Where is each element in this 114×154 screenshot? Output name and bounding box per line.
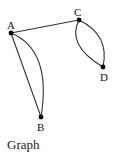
node-a (9, 31, 14, 36)
node-label-d: D (100, 71, 108, 83)
graph-diagram: A B C D Graph (0, 0, 114, 154)
diagram-caption: Graph (7, 137, 40, 152)
edge-a-b-straight (11, 33, 41, 117)
node-label-c: C (74, 6, 81, 18)
edge-c-d-left (76, 20, 103, 67)
node-label-a: A (7, 19, 15, 31)
node-b (39, 115, 44, 120)
node-label-b: B (37, 121, 44, 133)
node-c (77, 18, 82, 23)
edge-a-c (11, 20, 79, 33)
node-d (101, 65, 106, 70)
